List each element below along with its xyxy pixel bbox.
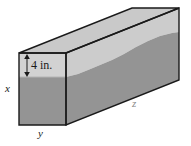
width-axis-label: y — [38, 128, 43, 139]
height-axis-label: x — [5, 83, 10, 94]
front-face-liquid-region — [19, 77, 66, 125]
figure-container: 4 in. x y z — [0, 0, 191, 146]
length-axis-label: z — [132, 98, 136, 109]
prism-diagram-svg — [0, 0, 191, 146]
depth-dimension-label: 4 in. — [31, 59, 52, 71]
